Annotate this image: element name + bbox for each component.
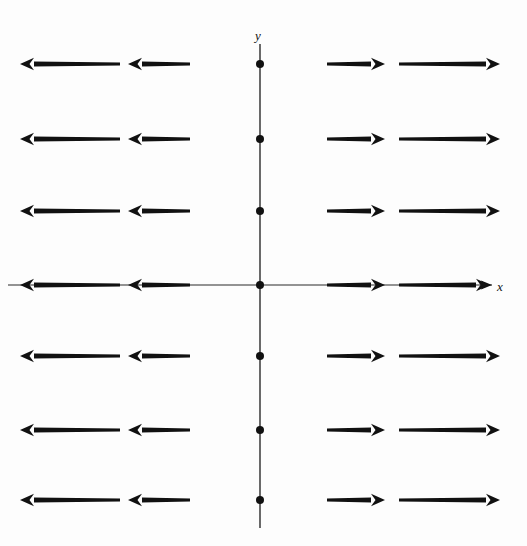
field-arrow [128,494,190,506]
arrow-shaft [327,208,371,213]
arrow-shaft [34,282,120,287]
axis-dot [256,426,264,434]
y-axis-label: y [255,29,261,42]
arrow-shaft [327,61,371,66]
arrow-shaft [142,208,190,213]
arrow-head [371,424,385,436]
arrow-shaft [142,282,190,287]
field-arrow [399,58,500,70]
axis-dot [256,60,264,68]
field-arrow [128,133,190,145]
arrow-shaft [34,208,120,213]
field-arrow [399,424,500,436]
field-arrow [399,133,500,145]
field-arrow [399,350,500,362]
field-arrow [128,205,190,217]
axis-dot [256,207,264,215]
arrow-shaft [327,353,371,358]
vector-field-canvas [0,0,527,546]
arrow-head [486,205,500,217]
field-arrow [327,58,385,70]
arrow-shaft [142,61,190,66]
field-arrow [20,58,120,70]
axis-dot [256,352,264,360]
field-arrow [399,205,500,217]
arrow-head [486,424,500,436]
arrow-shaft [34,136,120,141]
arrow-shaft [327,427,371,432]
arrow-shaft [34,61,120,66]
arrow-shaft [34,497,120,502]
arrow-head [20,350,34,362]
arrow-head [128,205,142,217]
field-arrow [128,58,190,70]
field-arrow [399,494,500,506]
arrow-head [128,58,142,70]
arrow-head [371,350,385,362]
arrow-shaft [399,208,486,213]
arrow-shaft [327,282,371,287]
arrow-shaft [327,136,371,141]
arrow-head [371,58,385,70]
axis-dot [256,496,264,504]
arrow-head [128,494,142,506]
arrow-shaft [399,353,486,358]
arrow-head [20,494,34,506]
field-arrow [327,205,385,217]
field-arrow [327,350,385,362]
vector-field-figure: y x [0,0,527,546]
arrow-head [128,424,142,436]
arrow-shaft [327,497,371,502]
arrow-shaft [399,497,486,502]
arrow-head [20,424,34,436]
arrow-shaft [142,497,190,502]
arrow-shaft [399,427,486,432]
field-arrow [128,279,190,291]
field-arrow [20,350,120,362]
field-arrow [327,424,385,436]
arrow-shaft [34,353,120,358]
field-arrow [128,424,190,436]
arrow-shaft [34,427,120,432]
arrow-head [486,350,500,362]
field-arrow [20,424,120,436]
arrow-head [486,133,500,145]
arrow-head [128,133,142,145]
field-arrow [327,494,385,506]
field-arrow [20,133,120,145]
arrow-shaft [142,353,190,358]
field-arrow [20,279,120,291]
arrow-head [371,133,385,145]
arrow-shaft [399,61,486,66]
field-arrow [20,494,120,506]
arrow-shaft [399,282,476,287]
arrow-head [371,494,385,506]
field-arrow [20,205,120,217]
arrow-head [20,133,34,145]
arrow-head [20,205,34,217]
x-axis-label: x [497,280,503,293]
axis-dot [256,281,264,289]
axis-dot [256,135,264,143]
arrow-shaft [142,136,190,141]
arrow-shaft [142,427,190,432]
arrow-shaft [399,136,486,141]
arrow-head [128,350,142,362]
field-arrow [327,279,385,291]
arrow-head [371,205,385,217]
arrow-head [486,58,500,70]
arrow-head [486,494,500,506]
field-arrow [128,350,190,362]
arrow-head [20,58,34,70]
field-arrow [327,133,385,145]
